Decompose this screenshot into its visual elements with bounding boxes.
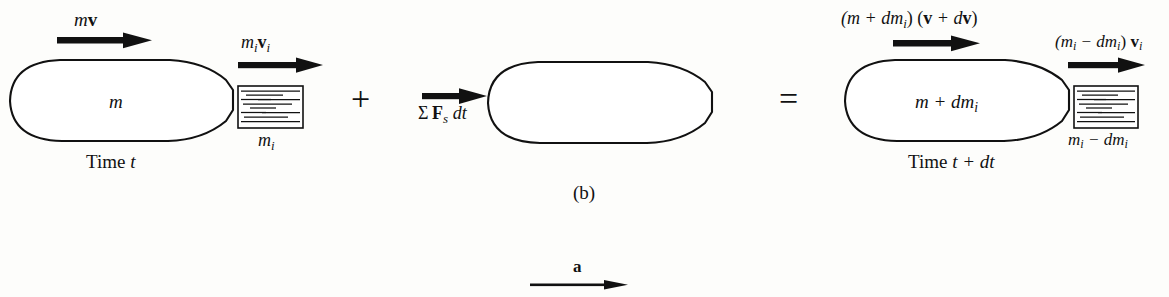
momentum-arrow-left: [57, 33, 152, 49]
rocket-momentum-diagram: mv m mivi mi Time t + Σ Fs dt = (m + dmi…: [0, 0, 1169, 297]
acceleration-arrow: [530, 280, 628, 290]
fluid-mass-label-left: mi: [258, 131, 275, 153]
body-mass-label-left: m: [109, 92, 123, 111]
rocket-body-middle: [488, 62, 712, 143]
fluid-mass-label-right: mi − dmi: [1068, 131, 1128, 151]
exhaust-fluid-left: [238, 86, 303, 128]
acceleration-label: a: [573, 258, 582, 275]
exhaust-fluid-right: [1074, 86, 1138, 128]
momentum-arrow-right: [893, 36, 980, 52]
exhaust-momentum-arrow-right: [1068, 58, 1145, 73]
figure-caption: (b): [573, 183, 595, 202]
time-label-left: Time t: [86, 152, 135, 171]
impulse-arrow: [422, 88, 487, 104]
momentum-label-left: mv: [74, 10, 97, 29]
time-label-right: Time t + dt: [908, 152, 995, 171]
momentum-label-right: (m + dmi) (v + dv): [841, 9, 977, 31]
exhaust-momentum-arrow-left: [238, 58, 323, 73]
body-mass-label-right: m + dmi: [915, 92, 978, 115]
plus-operator: +: [351, 82, 370, 116]
diagram-vector-layer: [0, 0, 1169, 297]
equals-operator: =: [779, 82, 798, 116]
exhaust-momentum-label-right: (mi − dmi) vi: [1055, 33, 1142, 53]
impulse-label: Σ Fs dt: [418, 104, 467, 126]
exhaust-momentum-label-left: mivi: [241, 33, 270, 55]
